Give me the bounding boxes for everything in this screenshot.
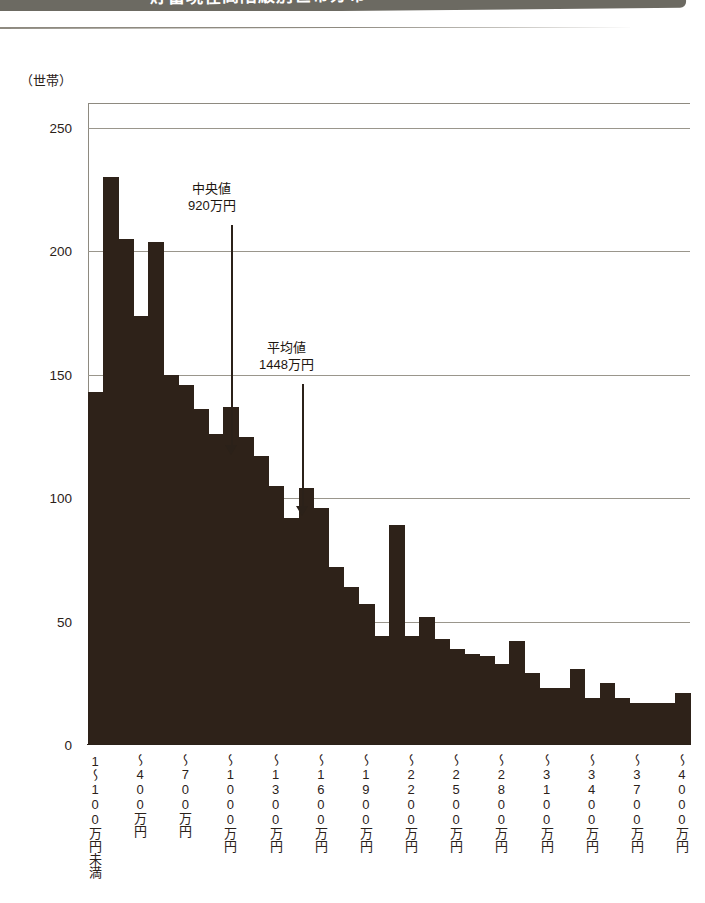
histogram-bar xyxy=(389,525,405,745)
histogram-bar xyxy=(344,587,360,745)
histogram-plot-area xyxy=(88,103,690,745)
histogram-bar xyxy=(585,698,601,745)
histogram-bar xyxy=(269,486,285,745)
histogram-bar xyxy=(404,636,420,745)
x-tick-label-6: ～1900万円 xyxy=(359,754,372,853)
page-banner: 貯蓄現在高階級別世帯分布 xyxy=(0,0,705,11)
x-tick-label-7: ～2200万円 xyxy=(405,754,418,853)
y-tick-label-0: 0 xyxy=(22,738,72,753)
histogram-bar xyxy=(540,688,556,745)
histogram-bar xyxy=(359,604,375,745)
y-tick-label-100: 100 xyxy=(22,491,72,506)
histogram-bar xyxy=(284,518,300,745)
x-axis-baseline xyxy=(87,744,690,746)
annotation-arrowhead-mean xyxy=(296,506,308,516)
histogram-bar xyxy=(314,508,330,745)
y-tick-label-50: 50 xyxy=(22,614,72,629)
histogram-bar xyxy=(118,239,134,745)
annotation-median-title: 中央値 xyxy=(188,181,236,198)
histogram-bar xyxy=(449,649,465,745)
annotation-median-value: 920万円 xyxy=(188,198,236,215)
histogram-bar xyxy=(254,456,270,745)
histogram-bar xyxy=(299,488,315,745)
y-tick-label-150: 150 xyxy=(22,367,72,382)
x-tick-label-11: ～3400万円 xyxy=(585,754,598,853)
histogram-bar xyxy=(103,177,119,745)
x-tick-label-2: ～700万円 xyxy=(179,754,192,838)
x-tick-label-4: ～1300万円 xyxy=(269,754,282,853)
histogram-bar xyxy=(464,654,480,745)
histogram-bar xyxy=(178,385,194,745)
histogram-bar xyxy=(570,669,586,746)
histogram-bar xyxy=(479,656,495,745)
x-tick-label-8: ～2500万円 xyxy=(450,754,463,853)
x-tick-label-9: ～2800万円 xyxy=(495,754,508,853)
banner-divider xyxy=(0,27,705,29)
x-tick-label-13: ～4000万円 xyxy=(675,754,688,853)
annotation-label-median: 中央値920万円 xyxy=(188,181,236,214)
histogram-bar xyxy=(208,434,224,745)
annotation-stem-median xyxy=(231,225,233,447)
x-tick-label-12: ～3700万円 xyxy=(630,754,643,853)
histogram-bar xyxy=(660,703,676,745)
histogram-bar xyxy=(434,639,450,745)
histogram-bar xyxy=(630,703,646,745)
y-axis-unit-caption: （世帯） xyxy=(20,70,72,89)
annotation-stem-mean xyxy=(302,384,304,509)
x-tick-label-0: 1～100万円未満 xyxy=(89,754,102,879)
histogram-bar xyxy=(329,567,345,745)
histogram-bar xyxy=(615,698,631,745)
histogram-bar xyxy=(163,375,179,745)
annotation-arrowhead-median xyxy=(225,445,237,455)
histogram-bar xyxy=(524,673,540,745)
gridline-200 xyxy=(88,251,690,252)
histogram-bar xyxy=(645,703,661,745)
plot-frame-top xyxy=(88,103,690,104)
y-tick-label-250: 250 xyxy=(22,121,72,136)
x-tick-label-5: ～1600万円 xyxy=(314,754,327,853)
x-tick-label-1: ～400万円 xyxy=(134,754,147,838)
histogram-bar xyxy=(509,641,525,745)
histogram-bar xyxy=(675,693,691,745)
histogram-bar xyxy=(555,688,571,745)
x-tick-label-3: ～1000万円 xyxy=(224,754,237,853)
y-tick-label-200: 200 xyxy=(22,244,72,259)
gridline-250 xyxy=(88,128,690,129)
histogram-bar xyxy=(193,409,209,745)
histogram-bar xyxy=(494,664,510,745)
histogram-bar xyxy=(133,316,149,745)
histogram-bar xyxy=(600,683,616,745)
histogram-bar xyxy=(419,617,435,745)
histogram-bar xyxy=(148,242,164,745)
x-tick-label-10: ～3100万円 xyxy=(540,754,553,853)
annotation-mean-title: 平均値 xyxy=(259,340,314,357)
histogram-bar xyxy=(374,636,390,745)
annotation-mean-value: 1448万円 xyxy=(259,357,314,374)
histogram-bar xyxy=(239,437,255,746)
histogram-bar xyxy=(88,392,104,745)
histogram-bar xyxy=(223,407,239,745)
annotation-label-mean: 平均値1448万円 xyxy=(259,340,314,373)
